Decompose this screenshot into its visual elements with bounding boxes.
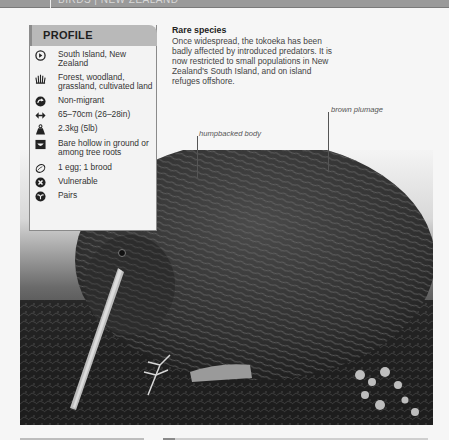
nest-icon — [35, 139, 46, 150]
profile-length-text: 65–70cm (26–28in) — [58, 109, 130, 119]
profile-range-text: South Island, New Zealand — [58, 49, 126, 68]
profile-eggs-text: 1 egg; 1 brood — [58, 162, 112, 172]
profile-status-text: Vulnerable — [58, 176, 98, 186]
profile-item-length: 65–70cm (26–28in) — [30, 110, 158, 119]
profile-header: PROFILE — [29, 25, 157, 46]
profile-item-nest: Bare hollow in ground or among tree root… — [30, 139, 158, 158]
leader-line-humpbacked — [197, 136, 198, 178]
profile-item-range: South Island, New Zealand — [30, 50, 158, 69]
egg-icon — [35, 163, 46, 174]
section-label: BIRDS | NEW ZEALAND — [58, 0, 178, 5]
running-header: BIRDS | NEW ZEALAND — [0, 0, 449, 8]
profile-item-weight: 2.3kg (5lb) — [30, 124, 158, 133]
annotation-humpbacked-body: humpbacked body — [199, 129, 261, 138]
profile-box: PROFILE South Island, New Zealand Forest… — [29, 25, 157, 231]
profile-weight-text: 2.3kg (5lb) — [58, 123, 98, 133]
profile-item-eggs: 1 egg; 1 brood — [30, 163, 158, 172]
rare-species-title: Rare species — [172, 25, 332, 36]
profile-item-migration: Non-migrant — [30, 96, 158, 105]
profile-nest-text: Bare hollow in ground or among tree root… — [58, 138, 149, 157]
profile-item-status: Vulnerable — [30, 177, 158, 186]
header-divider — [50, 0, 51, 8]
profile-social-text: Pairs — [58, 190, 77, 200]
length-icon — [35, 110, 46, 121]
migration-icon — [35, 96, 46, 107]
conservation-status-icon — [35, 177, 46, 188]
profile-item-social: Pairs — [30, 191, 158, 200]
rare-species-body: Once widespread, the tokoeka has been ba… — [172, 36, 332, 86]
range-icon — [35, 50, 46, 61]
profile-title: PROFILE — [43, 29, 93, 41]
profile-list: South Island, New Zealand Forest, woodla… — [30, 50, 158, 206]
annotation-brown-plumage: brown plumage — [331, 105, 383, 114]
social-unit-icon — [35, 191, 46, 202]
habitat-icon — [35, 73, 46, 84]
leader-line-plumage — [328, 112, 329, 172]
profile-item-habitat: Forest, woodland, grassland, cultivated … — [30, 73, 158, 92]
profile-habitat-text: Forest, woodland, grassland, cultivated … — [58, 72, 153, 91]
profile-migration-text: Non-migrant — [58, 95, 104, 105]
rare-species-section: Rare species Once widespread, the tokoek… — [172, 25, 332, 86]
weight-icon — [35, 124, 46, 135]
